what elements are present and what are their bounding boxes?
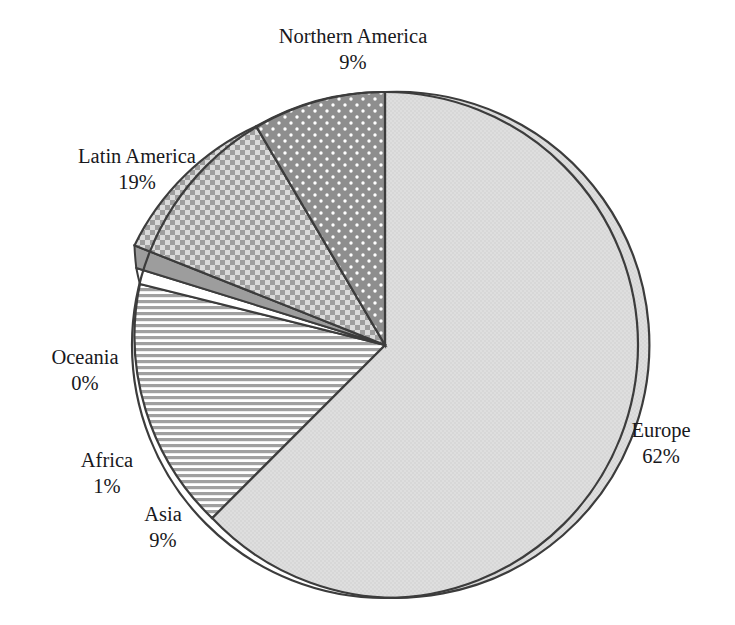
pie-label-latin-america-name: Latin America <box>0 144 282 170</box>
pie-label-latin-america: Latin America 19% <box>0 144 282 196</box>
pie-label-northern-america-name: Northern America <box>188 24 518 50</box>
pie-label-northern-america-percent: 9% <box>188 50 518 76</box>
pie-label-oceania: Oceania 0% <box>0 345 200 397</box>
pie-label-oceania-name: Oceania <box>0 345 200 371</box>
pie-label-latin-america-percent: 19% <box>0 170 282 196</box>
pie-label-oceania-percent: 0% <box>0 371 200 397</box>
pie-chart-figure: Northern America 9% Latin America 19% Oc… <box>0 0 735 625</box>
pie-label-northern-america: Northern America 9% <box>188 24 518 76</box>
pie-label-africa: Africa 1% <box>0 448 222 500</box>
pie-label-europe-name: Europe <box>586 418 735 444</box>
pie-label-asia: Asia 9% <box>48 502 278 554</box>
pie-label-africa-name: Africa <box>0 448 222 474</box>
pie-label-asia-percent: 9% <box>48 528 278 554</box>
pie-label-europe-percent: 62% <box>586 444 735 470</box>
pie-label-asia-name: Asia <box>48 502 278 528</box>
pie-label-europe: Europe 62% <box>586 418 735 470</box>
pie-label-africa-percent: 1% <box>0 474 222 500</box>
